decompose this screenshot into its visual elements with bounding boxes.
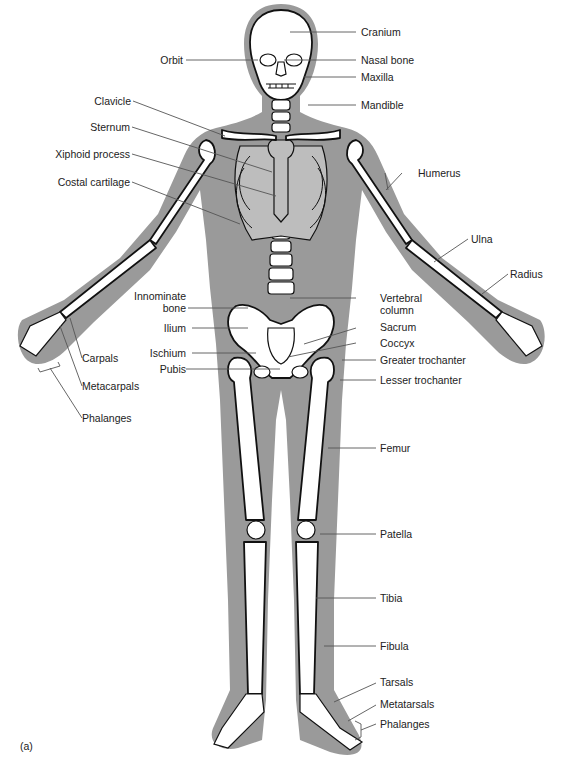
- label-humerus: Humerus: [418, 167, 461, 179]
- label-phalanges-foot: Phalanges: [380, 718, 430, 730]
- label-pubis: Pubis: [160, 363, 186, 375]
- label-sacrum: Sacrum: [380, 321, 416, 333]
- label-phalanges-hand: Phalanges: [82, 412, 132, 424]
- label-vertebral-column-1: Vertebral: [380, 292, 422, 304]
- label-metacarpals: Metacarpals: [82, 380, 139, 392]
- label-costal-cartilage: Costal cartilage: [58, 176, 130, 188]
- label-clavicle: Clavicle: [94, 95, 131, 107]
- label-carpals: Carpals: [82, 352, 118, 364]
- label-ischium: Ischium: [150, 347, 186, 359]
- label-nasal-bone: Nasal bone: [361, 54, 414, 66]
- panel-label: (a): [20, 740, 33, 752]
- label-ulna: Ulna: [471, 233, 493, 245]
- rib-cage: [235, 140, 327, 240]
- label-mandible: Mandible: [361, 99, 404, 111]
- label-tibia: Tibia: [380, 592, 402, 604]
- label-metatarsals: Metatarsals: [380, 698, 434, 710]
- label-greater-trochanter: Greater trochanter: [380, 354, 466, 366]
- label-innominate-bone-1: Innominate: [134, 290, 186, 302]
- label-sternum: Sternum: [90, 121, 130, 133]
- label-innominate-bone-2: bone: [163, 302, 186, 314]
- label-coccyx: Coccyx: [380, 337, 414, 349]
- label-vertebral-column-2: column: [380, 304, 414, 316]
- label-patella: Patella: [380, 528, 412, 540]
- label-cranium: Cranium: [361, 26, 401, 38]
- label-lesser-trochanter: Lesser trochanter: [380, 374, 462, 386]
- label-fibula: Fibula: [380, 640, 409, 652]
- label-orbit: Orbit: [160, 54, 183, 66]
- label-xiphoid-process: Xiphoid process: [55, 148, 130, 160]
- label-ilium: Ilium: [164, 322, 186, 334]
- label-femur: Femur: [380, 442, 410, 454]
- label-radius: Radius: [510, 268, 543, 280]
- label-tarsals: Tarsals: [380, 676, 413, 688]
- label-maxilla: Maxilla: [361, 71, 394, 83]
